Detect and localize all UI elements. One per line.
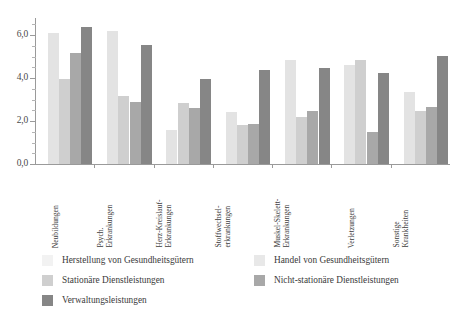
y-tick-major [30, 164, 36, 165]
category-label-line: erkrankungen [224, 206, 233, 248]
bar [437, 56, 448, 164]
bar [81, 27, 92, 164]
legend-label: Verwaltungsleistungen [62, 295, 147, 306]
bar [118, 96, 129, 164]
category-label-line: Psych. [96, 205, 105, 248]
bar [107, 31, 118, 164]
x-tick [213, 164, 214, 168]
legend-item[interactable]: Stationäre Dienstleistungen [42, 274, 165, 287]
bar [70, 53, 81, 164]
bar [178, 103, 189, 164]
category-label-line: Erkrankungen [165, 200, 174, 248]
x-tick [272, 164, 273, 168]
legend-label: Stationäre Dienstleistungen [62, 275, 165, 286]
bar [248, 124, 259, 164]
bar [307, 111, 318, 164]
legend-label: Herstellung von Gesundheitsgütern [62, 255, 194, 266]
bar [59, 79, 70, 164]
bar [259, 70, 270, 164]
bar [48, 33, 59, 164]
legend-swatch [254, 275, 265, 286]
bar [226, 112, 237, 164]
bar [285, 60, 296, 164]
y-tick-label: 4,0 [2, 73, 28, 83]
legend-item[interactable]: Nicht-stationäre Dienstleistungen [254, 274, 399, 287]
bar-chart: 0,02,04,06,0 NeubildungenPsych.Erkrankun… [0, 0, 455, 313]
x-tick [154, 164, 155, 168]
category-label-line: Erkrankungen [283, 199, 292, 248]
legend-swatch [42, 275, 53, 286]
category-label-line: Stoffwechsel- [215, 206, 224, 248]
x-tick [391, 164, 392, 168]
bar [404, 92, 415, 164]
legend-label: Nicht-stationäre Dienstleistungen [274, 275, 399, 286]
bar [200, 79, 211, 164]
bar [130, 102, 141, 164]
x-axis-line [35, 164, 450, 165]
x-tick [94, 164, 95, 168]
category-label-line: Verletzungen [347, 208, 356, 248]
bar [189, 108, 200, 164]
bar [296, 117, 307, 164]
legend-item[interactable]: Herstellung von Gesundheitsgütern [42, 254, 194, 267]
legend-item[interactable]: Handel von Gesundheitsgütern [254, 254, 389, 267]
y-tick-label: 0,0 [2, 159, 28, 169]
bar [344, 65, 355, 164]
bar [355, 60, 366, 164]
plot-area: 0,02,04,06,0 NeubildungenPsych.Erkrankun… [0, 0, 455, 250]
legend-swatch [42, 255, 53, 266]
bar [237, 125, 248, 164]
legend-swatch [42, 295, 53, 306]
bars-layer [35, 18, 450, 164]
bar [166, 130, 177, 164]
y-tick-label: 6,0 [2, 30, 28, 40]
legend-label: Handel von Gesundheitsgütern [274, 255, 389, 266]
category-label-line: Herz-Kreislauf- [155, 200, 164, 248]
category-label-line: Neubildungen [51, 205, 60, 248]
legend-swatch [254, 255, 265, 266]
legend: Herstellung von GesundheitsgüternHandel … [0, 252, 455, 313]
bar [141, 45, 152, 164]
legend-item[interactable]: Verwaltungsleistungen [42, 294, 147, 307]
bar [378, 73, 389, 164]
bar [319, 68, 330, 164]
category-label-line: Sonstige [392, 210, 401, 248]
bar [426, 107, 437, 164]
y-tick-label: 2,0 [2, 116, 28, 126]
bar [415, 111, 426, 164]
category-label-line: Erkrankungen [105, 205, 114, 248]
bar [367, 132, 378, 164]
x-tick [331, 164, 332, 168]
category-label-line: Krankheiten [402, 210, 411, 248]
